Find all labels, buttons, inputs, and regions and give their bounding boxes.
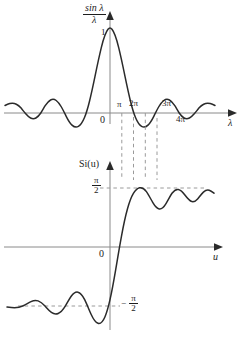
top-y-axis-label-numerator: sin λ (83, 3, 106, 15)
math-figure: sin λ λ 1 0 π 2π 3π 4π λ Si(u) π 2 0 − π… (0, 0, 243, 341)
upper-asymptote-denominator: 2 (92, 186, 101, 195)
top-y-axis-label: sin λ λ (83, 3, 106, 25)
upper-asymptote-label: π 2 (92, 176, 101, 196)
bottom-origin-label: 0 (99, 249, 104, 259)
connector-lines-group (122, 113, 157, 180)
top-plot-group (4, 11, 237, 127)
top-origin-label: 0 (100, 115, 105, 125)
top-tick-label-2pi: 2π (129, 99, 138, 108)
top-y-axis-label-denominator: λ (83, 15, 106, 26)
bottom-y-axis-label: Si(u) (79, 159, 99, 169)
top-x-axis-label: λ (228, 118, 232, 128)
top-x-axis-arrowhead (228, 109, 237, 117)
figure-canvas (0, 0, 243, 341)
bottom-x-axis-arrowhead (214, 243, 223, 251)
bottom-y-axis-arrowhead (106, 161, 114, 170)
lower-asymptote-label: − π 2 (121, 294, 138, 314)
bottom-x-axis-label: u (213, 252, 218, 262)
top-y-axis-arrowhead (106, 11, 114, 20)
top-tick-label-4pi: 4π (176, 115, 185, 124)
top-tick-label-3pi: 3π (162, 99, 171, 108)
lower-asymptote-denominator: 2 (129, 304, 138, 313)
bottom-plot-group (4, 161, 223, 330)
top-peak-label: 1 (101, 28, 106, 37)
top-tick-label-pi: π (117, 100, 122, 109)
lower-asymptote-sign: − (121, 299, 127, 308)
